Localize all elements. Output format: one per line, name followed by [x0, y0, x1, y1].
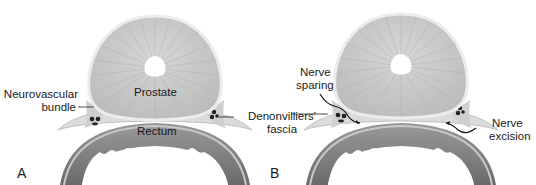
nerve-excision-label-line1: Nerve [492, 117, 523, 130]
neurovascular-label-line1: Neurovascular [4, 88, 78, 101]
rectum-label: Rectum [137, 125, 177, 138]
panel-letter-a: A [17, 165, 26, 181]
nerve-excision-label-line2: excision [489, 130, 531, 143]
prostate-cross-section-illustration-b [268, 0, 536, 185]
nerve-sparing-label-line1: Nerve [300, 66, 331, 79]
nerve-sparing-label-line2: sparing [296, 79, 334, 92]
prostate-label: Prostate [134, 86, 177, 99]
panel-letter-b: B [270, 165, 279, 181]
panel-b: Nerve sparing Nerve excision B [268, 0, 536, 185]
neurovascular-label-line2: bundle [41, 101, 76, 114]
panel-a: Prostate Rectum Neurovascular bundle Den… [0, 0, 268, 185]
